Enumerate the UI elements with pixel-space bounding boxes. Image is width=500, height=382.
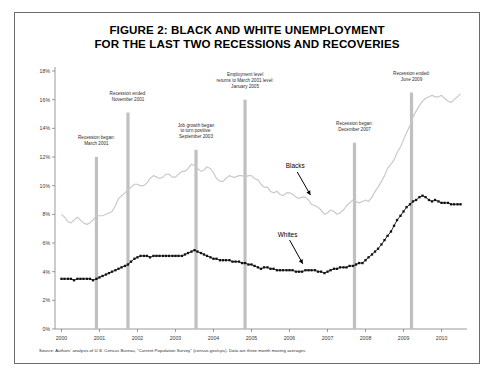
annotation-group: Recession began:March 2001Recession ende… bbox=[78, 71, 430, 146]
annotation-line: June 2009 bbox=[401, 77, 423, 82]
source-note: Source: Authors' analysis of U.S. Census… bbox=[39, 348, 459, 354]
annotation-line: January 2005 bbox=[231, 84, 259, 89]
y-tick-label: 6% bbox=[43, 240, 51, 246]
annotation-line: Recession ended: bbox=[110, 91, 147, 96]
annotation-line: Job growth began bbox=[178, 123, 215, 128]
annotation-job-growth-positive-2003: Job growth beganto turn positive:Septemb… bbox=[178, 123, 215, 139]
series-label-blacks: Blacks bbox=[286, 162, 311, 195]
event-marker-bar-employment-returns-2005 bbox=[243, 100, 246, 329]
event-marker-bar-recession-ended-2001 bbox=[126, 113, 129, 329]
annotation-line: Employment level bbox=[227, 72, 263, 77]
x-tick-label: 2002 bbox=[132, 335, 144, 341]
x-tick-label: 2006 bbox=[284, 335, 296, 341]
x-tick-label: 2010 bbox=[436, 335, 448, 341]
plot-area: 0%2%4%6%8%10%12%14%16%18%200020012002200… bbox=[15, 13, 481, 365]
x-tick-label: 2007 bbox=[322, 335, 334, 341]
annotation-line: Recession began: bbox=[78, 135, 115, 140]
annotation-recession-began-2007: Recession began:December 2007 bbox=[336, 121, 373, 132]
x-tick-label: 2004 bbox=[208, 335, 220, 341]
annotation-line: March 2001 bbox=[84, 141, 109, 146]
series-blacks bbox=[61, 94, 460, 224]
y-tick-label: 10% bbox=[40, 183, 51, 189]
y-tick-label: 18% bbox=[40, 68, 51, 74]
y-tick-label: 8% bbox=[43, 211, 51, 217]
series-label-text: Blacks bbox=[286, 162, 305, 169]
x-tick-label: 2009 bbox=[398, 335, 410, 341]
series-label-text: Whites bbox=[278, 231, 298, 238]
series-whites bbox=[60, 195, 461, 282]
x-tick-label: 2003 bbox=[170, 335, 182, 341]
y-tick-label: 12% bbox=[40, 154, 51, 160]
annotation-recession-began-2001: Recession began:March 2001 bbox=[78, 135, 115, 146]
y-tick-label: 16% bbox=[40, 97, 51, 103]
y-tick-label: 4% bbox=[43, 269, 51, 275]
x-tick-label: 2000 bbox=[56, 335, 68, 341]
unemployment-line-chart: 0%2%4%6%8%10%12%14%16%18%200020012002200… bbox=[15, 13, 481, 365]
annotation-line: December 2007 bbox=[338, 127, 371, 132]
series-label-whites: Whites bbox=[278, 231, 303, 264]
x-tick-label: 2005 bbox=[246, 335, 258, 341]
annotation-line: September 2003 bbox=[179, 134, 213, 139]
axis-lines bbox=[55, 67, 467, 329]
event-marker-bar-recession-began-2001 bbox=[95, 157, 98, 329]
annotation-line: Recession began: bbox=[336, 121, 373, 126]
annotation-employment-returns-2005: Employment levelreturns to March 2001 le… bbox=[217, 72, 274, 88]
x-tick-label: 2008 bbox=[360, 335, 372, 341]
event-marker-bar-recession-ended-2009 bbox=[410, 93, 413, 330]
annotation-recession-ended-2009: Recession ended:June 2009 bbox=[393, 71, 430, 82]
y-tick-label: 2% bbox=[43, 297, 51, 303]
annotation-recession-ended-2001: Recession ended:November 2001 bbox=[110, 91, 147, 102]
x-tick-label: 2001 bbox=[94, 335, 106, 341]
figure-frame: FIGURE 2: BLACK AND WHITE UNEMPLOYMENT F… bbox=[14, 12, 480, 364]
annotation-line: returns to March 2001 level: bbox=[217, 78, 274, 83]
event-marker-bar-job-growth-positive-2003 bbox=[194, 150, 197, 329]
annotation-line: Recession ended: bbox=[393, 71, 430, 76]
y-tick-label: 0% bbox=[43, 326, 51, 332]
y-tick-label: 14% bbox=[40, 125, 51, 131]
series-label-group: BlacksWhites bbox=[278, 162, 311, 263]
data-series-group bbox=[60, 94, 461, 281]
annotation-line: November 2001 bbox=[112, 97, 145, 102]
annotation-line: to turn positive: bbox=[180, 128, 211, 133]
event-marker-bar-recession-began-2007 bbox=[353, 143, 356, 329]
